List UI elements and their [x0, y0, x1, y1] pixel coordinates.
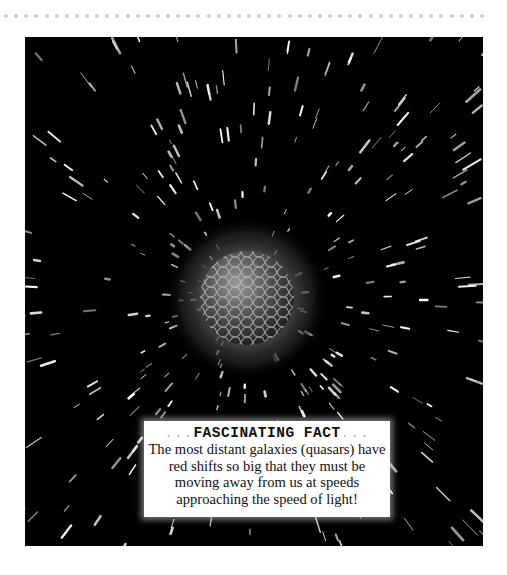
divider-dot [196, 14, 200, 18]
divider-dot [75, 14, 79, 18]
divider-dot [247, 14, 251, 18]
divider-dot [207, 14, 211, 18]
divider-dot [115, 14, 119, 18]
divider-dot [338, 14, 342, 18]
divider-dot [288, 14, 292, 18]
planet-texture [200, 251, 294, 345]
divider-dot [298, 14, 302, 18]
fact-title: ...FASCINATING FACT... [144, 425, 390, 441]
divider-dot [409, 14, 413, 18]
divider-dot [399, 14, 403, 18]
divider-dot [237, 14, 241, 18]
divider-dot [470, 14, 474, 18]
divider-dot [460, 14, 464, 18]
divider-dot [136, 14, 140, 18]
divider-dot [156, 14, 160, 18]
divider-dot [105, 14, 109, 18]
divider-dot [439, 14, 443, 18]
divider-dot [146, 14, 150, 18]
divider-dot [126, 14, 130, 18]
divider-dot [55, 14, 59, 18]
divider-dot [318, 14, 322, 18]
divider-dot [277, 14, 281, 18]
divider-dot [4, 14, 8, 18]
title-dots-left: ... [164, 425, 193, 441]
divider-dot [328, 14, 332, 18]
title-dots-right: ... [341, 425, 370, 441]
fascinating-fact-box: ...FASCINATING FACT... The most distant … [144, 421, 390, 517]
divider-dot [24, 14, 28, 18]
divider-dot [308, 14, 312, 18]
divider-dot [480, 14, 484, 18]
divider-dot [267, 14, 271, 18]
divider-dot [348, 14, 352, 18]
divider-dot [379, 14, 383, 18]
divider-dot [65, 14, 69, 18]
divider-dot [217, 14, 221, 18]
divider-dot [389, 14, 393, 18]
divider-dot [419, 14, 423, 18]
divider-dot [227, 14, 231, 18]
divider-dot [257, 14, 261, 18]
divider-dot [450, 14, 454, 18]
fact-title-text: FASCINATING FACT [193, 425, 340, 441]
divider-dot [358, 14, 362, 18]
divider-dot [45, 14, 49, 18]
divider-dot [429, 14, 433, 18]
divider-dot [166, 14, 170, 18]
divider-dot [85, 14, 89, 18]
divider-dot [34, 14, 38, 18]
divider-dot [176, 14, 180, 18]
divider-dot [369, 14, 373, 18]
dotted-divider [4, 14, 484, 22]
fact-text: The most distant galaxies (quasars) have… [144, 441, 390, 507]
divider-dot [14, 14, 18, 18]
divider-dot [95, 14, 99, 18]
divider-dot [186, 14, 190, 18]
